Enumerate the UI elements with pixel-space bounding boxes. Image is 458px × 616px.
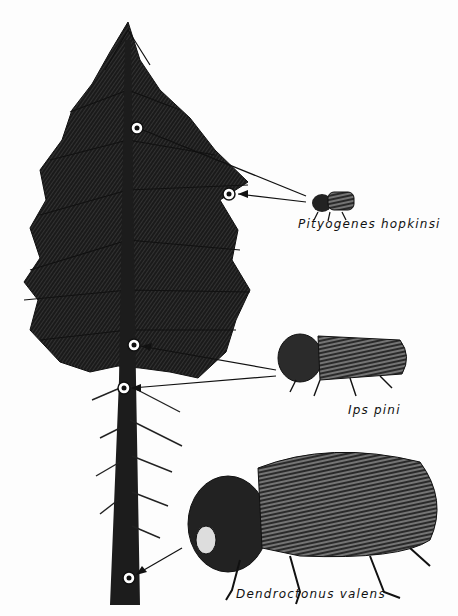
species-label-dendroctonus-valens: Dendroctonus valens (236, 587, 386, 601)
species-label-ips-pini: Ips pini (348, 403, 401, 417)
illustration-canvas: Pityogenes hopkinsi Ips pini Dendroctonu… (0, 0, 458, 616)
pine-tree-crown (24, 22, 250, 378)
species-label-pityogenes-hopkinsi: Pityogenes hopkinsi (298, 217, 441, 231)
tree-and-beetles-illustration (0, 0, 458, 616)
beetle-ips-pini (278, 334, 407, 396)
beetle-dendroctonus-valens (188, 452, 437, 604)
